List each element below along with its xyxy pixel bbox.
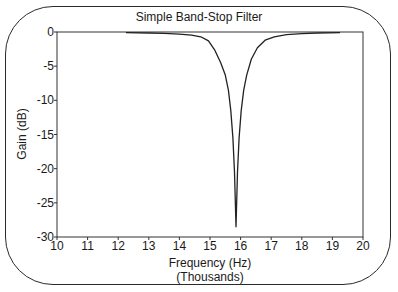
y-axis-ticks: 0-5-10-15-20-25-30 xyxy=(37,25,57,244)
y-tick-label: -20 xyxy=(37,162,55,176)
y-tick-label: -10 xyxy=(37,93,55,107)
x-tick-label: 17 xyxy=(265,239,279,253)
x-axis-sublabel: (Thousands) xyxy=(176,270,243,284)
y-tick-label: -25 xyxy=(37,196,55,210)
plot-border xyxy=(57,32,363,237)
x-tick-label: 15 xyxy=(203,239,217,253)
plot-area: 0-5-10-15-20-25-30 101112131415161718192… xyxy=(0,0,398,292)
x-tick-label: 20 xyxy=(356,239,370,253)
axes xyxy=(57,32,363,237)
gain-curve xyxy=(126,33,340,227)
x-tick-label: 14 xyxy=(173,239,187,253)
x-tick-label: 18 xyxy=(295,239,309,253)
y-axis-label: Gain (dB) xyxy=(15,108,29,159)
x-tick-label: 13 xyxy=(142,239,156,253)
x-axis-label: Frequency (Hz) xyxy=(169,256,252,270)
x-tick-label: 11 xyxy=(81,239,94,253)
x-tick-label: 16 xyxy=(234,239,248,253)
x-tick-label: 12 xyxy=(112,239,126,253)
y-tick-label: -15 xyxy=(37,128,55,142)
x-tick-label: 10 xyxy=(50,239,64,253)
x-tick-label: 19 xyxy=(326,239,340,253)
y-tick-label: 0 xyxy=(47,25,54,39)
x-axis-ticks: 1011121314151617181920 xyxy=(50,237,370,253)
y-tick-label: -5 xyxy=(43,59,54,73)
